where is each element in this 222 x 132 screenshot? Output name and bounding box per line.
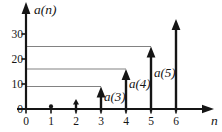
annotation-label: a(5) [154, 65, 176, 80]
x-tick-label: 4 [123, 115, 129, 127]
x-tick-label: 6 [173, 115, 179, 127]
x-tick-label: 0 [23, 115, 29, 127]
y-axis-title: a(n) [34, 2, 57, 17]
x-tick-label: 2 [73, 115, 79, 127]
y-tick-label: 20 [12, 53, 24, 65]
x-axis-title: n [211, 113, 218, 128]
stem-plot-figure: 01234560102030a(3)a(4)a(5)a(n)n [0, 0, 222, 132]
y-tick-label: 30 [12, 28, 24, 40]
y-axis-arrow-icon [22, 2, 31, 14]
y-tick-label: 10 [12, 78, 24, 90]
stem-arrowhead-icon [172, 19, 181, 30]
x-tick-label: 5 [148, 115, 154, 127]
annotation-label: a(3) [104, 89, 126, 104]
stem-plot-canvas: 01234560102030a(3)a(4)a(5)a(n)n [0, 0, 222, 132]
y-tick-label: 0 [17, 103, 23, 115]
stem-arrowhead-icon [147, 47, 156, 58]
x-tick-label: 1 [48, 115, 54, 127]
stem-dot [49, 104, 53, 108]
annotation-label: a(4) [129, 76, 151, 91]
x-tick-label: 3 [98, 115, 104, 127]
stem-arrowhead-icon [73, 99, 79, 105]
